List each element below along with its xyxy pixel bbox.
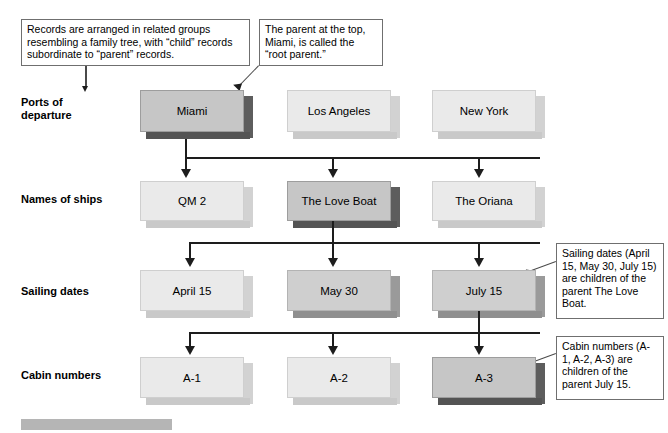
note-family-tree: Records are arranged in related groups r… (21, 19, 250, 66)
node-los-angeles-face: Los Angeles (287, 90, 391, 132)
node-new-york-bottom (438, 132, 542, 139)
node-a1[interactable]: A-1 (140, 357, 244, 398)
connector-ships-arrow-2 (328, 258, 338, 267)
node-april-15-face: April 15 (140, 270, 244, 311)
connector-dates-arrow-2 (328, 346, 338, 355)
row-label-cabin-numbers: Cabin numbers (21, 369, 101, 382)
node-may-30[interactable]: May 30 (287, 270, 391, 311)
note-sailing-children: Sailing dates (April 15, May 30, July 15… (556, 243, 664, 319)
connector-dates-arrow-1 (185, 346, 195, 355)
node-july-15[interactable]: July 15 (432, 270, 536, 311)
diagram-canvas: Records are arranged in related groups r… (0, 0, 668, 433)
connector-dates-stem (478, 311, 480, 334)
node-love-boat-label: The Love Boat (302, 195, 377, 207)
node-new-york-face: New York (432, 90, 536, 132)
node-qm2[interactable]: QM 2 (140, 181, 244, 221)
row-label-names-of-ships: Names of ships (21, 193, 102, 206)
node-a3-face: A-3 (432, 357, 536, 398)
row-label-ports-of-departure: Ports of departure (21, 96, 72, 122)
connector-ships-bus (189, 242, 540, 244)
node-april-15-label: April 15 (173, 285, 212, 297)
node-miami[interactable]: Miami (140, 90, 244, 132)
footer-bar (21, 419, 172, 430)
row-label-sailing-dates: Sailing dates (21, 285, 89, 298)
node-may-30-face: May 30 (287, 270, 391, 311)
connector-ports-arrow-3 (474, 169, 484, 178)
node-miami-face: Miami (140, 90, 244, 132)
node-april-15[interactable]: April 15 (140, 270, 244, 311)
node-qm2-label: QM 2 (178, 195, 206, 207)
node-new-york-label: New York (460, 105, 509, 117)
node-may-30-bottom (293, 311, 397, 318)
connector-ships-arrow-1 (185, 258, 195, 267)
connector-ships-arrow-3 (474, 258, 484, 267)
node-love-boat-face: The Love Boat (287, 181, 391, 221)
node-a3-label: A-3 (475, 372, 493, 384)
node-qm2-face: QM 2 (140, 181, 244, 221)
node-new-york[interactable]: New York (432, 90, 536, 132)
node-may-30-label: May 30 (320, 285, 358, 297)
node-love-boat-bottom (293, 221, 397, 228)
node-a2-label: A-2 (330, 372, 348, 384)
connector-ships-stem (332, 221, 334, 244)
node-miami-label: Miami (177, 105, 208, 117)
node-love-boat[interactable]: The Love Boat (287, 181, 391, 221)
note-family-tree-leader (85, 66, 87, 88)
node-qm2-bottom (146, 221, 250, 228)
note-cabin-children: Cabin numbers (A-1, A-2, A-3) are childr… (556, 336, 664, 400)
node-a1-bottom (146, 398, 250, 405)
node-a1-face: A-1 (140, 357, 244, 398)
connector-dates-arrow-3 (474, 346, 484, 355)
node-april-15-bottom (146, 311, 250, 318)
node-oriana-bottom (438, 221, 542, 228)
connector-ports-bus (185, 157, 540, 159)
connector-dates-bus (189, 332, 540, 334)
node-a3-bottom (438, 398, 542, 405)
node-oriana-label: The Oriana (455, 195, 513, 207)
connector-ports-stem (185, 139, 187, 159)
node-july-15-face: July 15 (432, 270, 536, 311)
node-a2-bottom (293, 398, 397, 405)
node-los-angeles-bottom (293, 132, 397, 139)
node-los-angeles-label: Los Angeles (308, 105, 371, 117)
node-a1-label: A-1 (183, 372, 201, 384)
node-a2-face: A-2 (287, 357, 391, 398)
node-july-15-label: July 15 (466, 285, 502, 297)
note-root-parent: The parent at the top, Miami, is called … (259, 19, 383, 66)
node-a2[interactable]: A-2 (287, 357, 391, 398)
node-los-angeles[interactable]: Los Angeles (287, 90, 391, 132)
connector-ports-arrow-1 (181, 169, 191, 178)
node-july-15-bottom (438, 311, 542, 318)
node-oriana-face: The Oriana (432, 181, 536, 221)
node-miami-bottom (146, 132, 250, 139)
note-family-tree-arrowhead (82, 86, 88, 92)
node-a3[interactable]: A-3 (432, 357, 536, 398)
node-oriana[interactable]: The Oriana (432, 181, 536, 221)
connector-ports-arrow-2 (328, 169, 338, 178)
